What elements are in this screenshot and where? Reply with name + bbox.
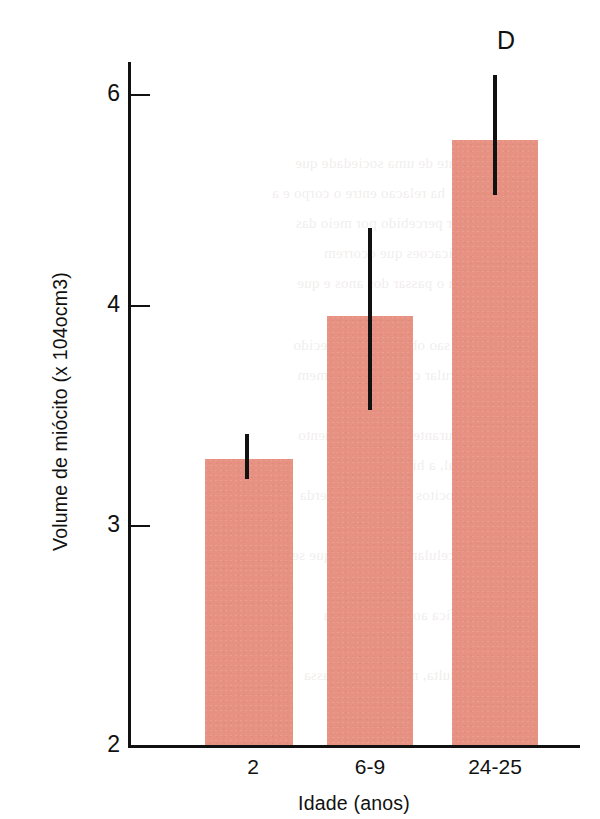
error-bar-age-24-25: [493, 75, 497, 195]
x-axis-title: Idade (anos): [128, 792, 580, 815]
chart-figure: falante de uma sociedade que ha relacao …: [0, 0, 600, 819]
y-tick-label: 4: [88, 291, 120, 318]
bleed-line: ha relacao entre o corpo e a: [272, 178, 445, 208]
y-tick-label: 2: [88, 731, 120, 758]
bleed-line: com o passar dos anos e que: [297, 268, 475, 298]
y-axis-line: [128, 62, 131, 748]
y-tick-mark: [131, 94, 150, 96]
bar-age-24-25: [452, 140, 538, 745]
y-tick-label: 6: [88, 80, 120, 107]
error-bar-age-2: [245, 434, 249, 479]
x-tick-label-age-6-9: 6-9: [327, 755, 413, 779]
x-axis-line: [128, 745, 580, 748]
x-tick-label-age-24-25: 24-25: [452, 755, 538, 779]
bar-age-2: [205, 459, 293, 745]
x-tick-label-age-2: 2: [209, 755, 297, 779]
panel-label: D: [497, 26, 516, 55]
bleed-line: ser percebido por meio das: [296, 208, 465, 238]
y-tick-label: 3: [88, 511, 120, 538]
y-tick-mark: [131, 525, 150, 527]
y-tick-mark: [131, 305, 150, 307]
error-bar-age-6-9: [368, 228, 372, 410]
y-axis-title: Volume de miócito (x 104ocm3): [49, 182, 72, 642]
